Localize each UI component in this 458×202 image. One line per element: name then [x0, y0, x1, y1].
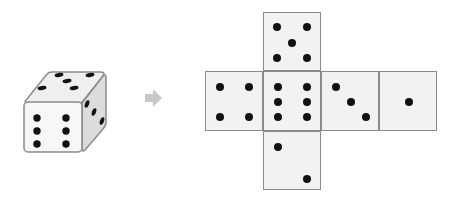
- pip-dot: [303, 83, 311, 91]
- pip-dot: [303, 54, 311, 62]
- pip-dot: [303, 175, 311, 183]
- pip-dot: [274, 113, 282, 121]
- net-face-center: [263, 71, 321, 131]
- pip-dot: [332, 83, 340, 91]
- pip-dot: [405, 98, 413, 106]
- pip-dot: [303, 113, 311, 121]
- net-face-top: [263, 12, 321, 71]
- pip-dot: [362, 113, 370, 121]
- net-face-right: [321, 71, 379, 131]
- pip-dot: [303, 23, 311, 31]
- net-face-left: [205, 71, 263, 131]
- pip-dot: [347, 98, 355, 106]
- net-face-far-right: [379, 71, 437, 131]
- die-net: [0, 0, 458, 202]
- pip-dot: [274, 83, 282, 91]
- pip-dot: [303, 98, 311, 106]
- pip-dot: [216, 83, 224, 91]
- pip-dot: [216, 113, 224, 121]
- pip-dot: [273, 54, 281, 62]
- pip-dot: [288, 39, 296, 47]
- pip-dot: [274, 98, 282, 106]
- pip-dot: [245, 83, 253, 91]
- pip-dot: [273, 23, 281, 31]
- pip-dot: [245, 113, 253, 121]
- pip-dot: [274, 143, 282, 151]
- net-face-bottom: [263, 131, 321, 190]
